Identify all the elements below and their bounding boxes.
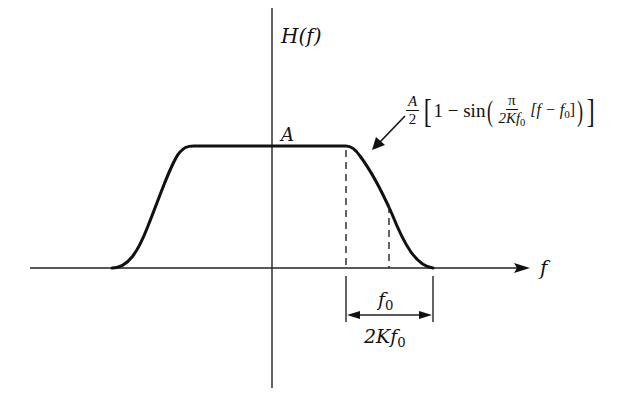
right-paren: ) bbox=[577, 96, 583, 126]
arrow-right-icon bbox=[419, 311, 432, 319]
diagram-graphics bbox=[0, 0, 637, 395]
bracket-expression-text: [f − f bbox=[530, 101, 564, 118]
left-bracket: [ bbox=[424, 94, 432, 128]
arrow-left-icon bbox=[347, 311, 360, 319]
bandwidth-subscript: 0 bbox=[397, 335, 405, 350]
f0-label: f0 bbox=[378, 288, 394, 313]
bracket-close: ] bbox=[570, 101, 575, 118]
pi-fraction: π 2Kf0 bbox=[498, 93, 525, 129]
coefficient-fraction: A 2 bbox=[406, 94, 419, 127]
f0-text: f bbox=[378, 288, 385, 310]
bandwidth-label: 2Kf0 bbox=[364, 325, 406, 350]
denominator-subscript: 0 bbox=[520, 117, 525, 128]
coefficient-denominator: 2 bbox=[409, 111, 417, 127]
formula-pointer-line bbox=[380, 116, 405, 142]
rolloff-formula: A 2 [ 1 − sin ( π 2Kf0 [f − f0] ) ] bbox=[403, 93, 597, 129]
pi-denominator: 2Kf0 bbox=[498, 110, 525, 129]
coefficient-numerator: A bbox=[406, 94, 419, 111]
bandwidth-text: 2Kf bbox=[364, 325, 397, 347]
left-paren: ( bbox=[487, 96, 493, 126]
pi-numerator: π bbox=[506, 93, 518, 110]
f0-subscript: 0 bbox=[385, 298, 393, 313]
peak-amplitude-label: A bbox=[281, 124, 294, 145]
filter-response-diagram: H(f) f A A 2 [ 1 − sin ( π 2Kf0 [f − f0]… bbox=[0, 0, 637, 395]
bracket-expression: [f − f0] bbox=[530, 101, 575, 120]
y-axis-label: H(f) bbox=[281, 24, 321, 48]
x-axis-label: f bbox=[540, 256, 547, 280]
right-bracket: ] bbox=[587, 94, 595, 128]
one-minus-sin: 1 − sin bbox=[434, 100, 486, 122]
denominator-text: 2Kf bbox=[498, 110, 520, 126]
